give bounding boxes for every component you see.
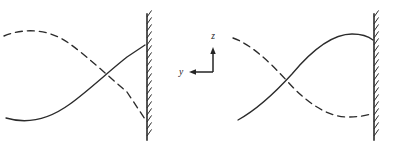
incident-wave-right — [238, 34, 373, 120]
incident-wave-left — [6, 45, 145, 121]
reflected-wave-right — [233, 38, 373, 117]
reflected-wave-left — [4, 31, 145, 119]
fixed-wall-right — [374, 10, 379, 140]
z-axis-label: z — [210, 31, 215, 41]
z-axis-arrowhead — [210, 47, 215, 54]
panels-group — [4, 10, 379, 140]
coordinate-axes: zy — [178, 31, 216, 77]
wave-reflection-figure: zy — [0, 0, 396, 146]
y-axis-label: y — [178, 67, 184, 77]
fixed-wall-left — [147, 10, 152, 140]
figure-canvas: zy — [0, 0, 396, 146]
panel-right — [233, 10, 379, 140]
panel-left — [4, 10, 152, 140]
y-axis-arrowhead — [189, 69, 196, 74]
